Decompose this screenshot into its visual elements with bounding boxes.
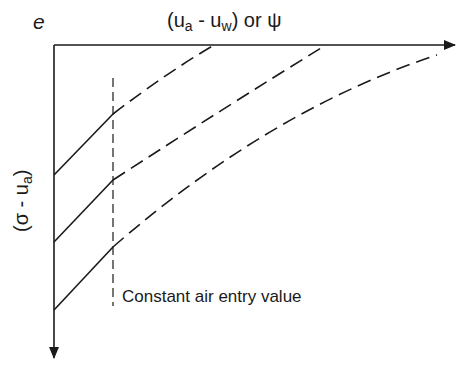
curve-2-dashed bbox=[113, 45, 326, 180]
diagram-canvas bbox=[0, 0, 474, 377]
curve-1-solid bbox=[54, 114, 113, 175]
air-entry-annotation: Constant air entry value bbox=[122, 287, 302, 307]
void-ratio-label: e bbox=[33, 10, 45, 34]
curve-3-dashed bbox=[113, 55, 437, 247]
curve-2-solid bbox=[54, 180, 113, 242]
curve-1-dashed bbox=[113, 45, 214, 114]
vertical-axis-label: (σ - ua) bbox=[10, 170, 35, 232]
horizontal-axis-label: (ua - uw) or ψ bbox=[167, 9, 281, 34]
curve-3-solid bbox=[54, 247, 113, 310]
